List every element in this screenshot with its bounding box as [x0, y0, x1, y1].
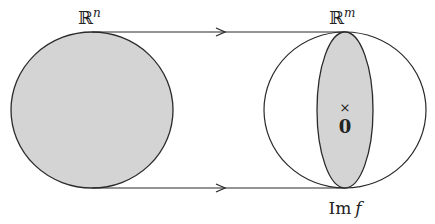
origin-marker-icon: × — [340, 100, 351, 115]
image-label: Imf — [328, 198, 364, 218]
origin-label: 0 — [339, 116, 352, 137]
codomain-label: ℝm — [329, 6, 355, 28]
domain-label: ℝn — [78, 6, 101, 28]
diagram-canvas: ℝn ℝm × 0 Imf — [0, 0, 435, 224]
domain-disk — [11, 32, 173, 188]
